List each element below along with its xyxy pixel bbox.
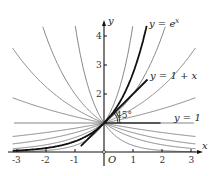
y-tick-label: 2 <box>96 89 102 99</box>
origin-label: O <box>108 154 116 165</box>
y-axis-arrow-icon <box>102 20 106 26</box>
label-y-1-plus-x: y = 1 + x <box>149 70 197 81</box>
exponential-curve <box>43 27 196 149</box>
label-y-1: y = 1 <box>173 112 201 123</box>
x-tick-label: 2 <box>160 155 166 165</box>
axis-ticks: -3-2-1123234 <box>12 31 195 165</box>
y-axis-label: y <box>107 15 114 26</box>
y-tick-label: 3 <box>96 60 102 70</box>
angle-label: 45° <box>116 110 132 120</box>
x-tick-label: 1 <box>131 155 137 165</box>
x-tick-label: -1 <box>70 155 79 165</box>
x-tick-label: -3 <box>12 155 21 165</box>
highlight-curve <box>13 26 147 151</box>
x-tick-label: 3 <box>189 155 195 165</box>
x-axis-label: x <box>202 140 208 151</box>
origin-dot <box>103 151 106 154</box>
label-y-ex: y = ex <box>148 17 179 29</box>
exponential-diagram: -3-2-1123234 x y O y = ex y = 1 + x y = … <box>0 0 213 176</box>
y-tick-label: 4 <box>96 31 102 41</box>
highlight-curve <box>81 80 148 147</box>
x-tick-label: -2 <box>41 155 50 165</box>
